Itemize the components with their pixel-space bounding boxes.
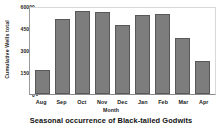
x-axis-title: Month (0, 107, 222, 113)
bar-aug (35, 70, 50, 94)
chart-title: Seasonal occurrence of Black-tailed Godw… (0, 116, 222, 125)
bar-jan (135, 15, 150, 94)
bar-sep (55, 19, 70, 94)
bar-mar (175, 38, 190, 94)
bar-series (30, 8, 215, 94)
bar-apr (195, 61, 210, 94)
bar-dec (115, 25, 130, 94)
bar-oct (75, 11, 90, 94)
plot-area (29, 7, 216, 95)
chart-figure: Cumulative Wells total 01500030000450006… (0, 0, 222, 131)
bar-feb (155, 14, 170, 94)
bar-nov (95, 12, 110, 94)
